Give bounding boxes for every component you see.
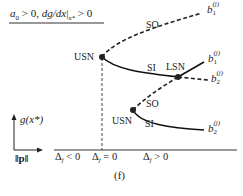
region-label-negative: Δj < 0 [55,151,80,162]
branch-end-b1-solid: b(j)1 [208,52,222,64]
b-sup: (j) [214,119,221,127]
branch-end-b2-dashed: b(j)2 [211,72,225,84]
so-lower-label: SO [146,98,159,109]
figure-caption: (f) [114,169,125,181]
si-upper-label: SI [147,62,156,73]
so-upper-label: SO [146,19,159,30]
b-sup: (j) [213,0,220,8]
bifurcation-diagram [0,0,243,196]
branch-si-lower [133,110,204,130]
b-sup: (j) [217,69,224,77]
usn-upper-node [99,54,105,60]
lsn-node [175,74,181,80]
delta-rel: > 0 [152,151,168,162]
condition-heading: a0 > 0, dg/dx|x* > 0 [10,7,92,22]
b-sup: (j) [214,49,221,57]
b-sub: 1 [214,58,218,66]
b-sub: 2 [217,78,221,86]
si-lower-label: SI [145,118,154,129]
delta-rel: = 0 [101,151,117,162]
usn-lower-label: USN [112,115,132,126]
delta-sub: j [62,156,64,164]
b-sub: 1 [213,9,217,17]
heading-x-sub: x* [68,14,75,22]
delta-sub: j [99,156,101,164]
heading-gt0-first: > 0, [19,7,42,19]
delta-symbol: Δ [143,151,150,162]
lsn-label: LSN [166,61,185,72]
x-axis-label: ‖p‖ [15,152,28,164]
usn-upper-label: USN [74,51,94,62]
delta-rel: < 0 [64,151,80,162]
heading-dgdx: dg/dx [42,7,66,19]
branch-end-b1-dashed: b(j)1 [207,3,221,15]
usn-lower-node [130,107,136,113]
branch-end-b2-solid: b(j)2 [208,122,222,134]
y-axis-label: g(x*) [20,113,43,125]
region-label-positive: Δj > 0 [143,151,168,162]
heading-gt0-second: > 0 [75,7,92,19]
region-label-zero: Δj = 0 [92,151,117,162]
delta-sub: j [150,156,152,164]
branch-lsn-b2 [178,77,208,80]
delta-symbol: Δ [92,151,99,162]
delta-symbol: Δ [55,151,62,162]
b-sub: 2 [214,128,218,136]
